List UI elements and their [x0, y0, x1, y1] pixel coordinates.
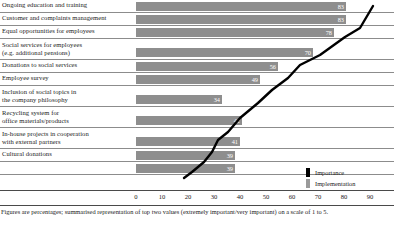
chart-row: Donations to social services 56	[0, 61, 394, 72]
chart-footnote: Figures are percentages; summarised repr…	[1, 207, 393, 216]
chart-legend: Importance Implementation	[306, 167, 392, 189]
row-separator	[0, 148, 394, 149]
legend-label-implementation: Implementation	[315, 179, 355, 188]
chart-row: Employee survey 49	[0, 74, 394, 85]
x-tick-50: 50	[256, 193, 276, 200]
bar-value-label: 39	[195, 151, 233, 160]
row-separator	[0, 85, 394, 86]
bar-value-label: 41	[200, 137, 238, 146]
chart-row: In-house projects in cooperation with ex…	[0, 130, 394, 148]
chart-container: Ongoing education and training 83 Custom…	[0, 0, 394, 225]
legend-item-importance: Importance	[306, 167, 392, 178]
x-tick-10: 10	[152, 193, 172, 200]
row-separator	[0, 72, 394, 73]
bar-value-label: 39	[195, 164, 233, 173]
row-label: Cultural donations	[2, 150, 134, 158]
bar-value-label: 83	[306, 15, 344, 24]
chart-row: Cultural donations 39	[0, 150, 394, 161]
row-separator	[0, 127, 394, 128]
bar-value-label: 34	[182, 95, 220, 104]
row-separator	[0, 59, 394, 60]
row-label: Social services for employees (e.g. addi…	[2, 41, 134, 57]
legend-swatch-implementation	[306, 179, 310, 188]
legend-swatch-importance	[306, 168, 310, 177]
x-axis-line	[0, 190, 394, 191]
chart-row: Inclusion of social topics in the compan…	[0, 88, 394, 106]
x-tick-30: 30	[204, 193, 224, 200]
row-separator	[0, 12, 394, 13]
row-label: Recycling system for office materials/pr…	[2, 109, 134, 125]
legend-item-implementation: Implementation	[306, 178, 392, 189]
row-separator	[0, 161, 394, 162]
x-tick-40: 40	[230, 193, 250, 200]
plot-area: Ongoing education and training 83 Custom…	[0, 0, 394, 190]
chart-row: Recycling system for office materials/pr…	[0, 109, 394, 127]
row-label: Customer and complaints management	[2, 14, 134, 22]
bar-value-label: 49	[220, 75, 258, 84]
chart-row: Customer and complaints management 83	[0, 14, 394, 25]
bar-value-label: 83	[306, 2, 344, 11]
row-separator	[0, 38, 394, 39]
x-axis-baseline	[0, 205, 394, 206]
row-label: Donations to social services	[2, 61, 134, 69]
x-tick-60: 60	[282, 193, 302, 200]
row-label: Ongoing education and training	[2, 1, 134, 9]
row-label: Equal opportunities for employees	[2, 27, 134, 35]
bar-value-label: 42	[202, 116, 240, 125]
chart-row: Ongoing education and training 83	[0, 1, 394, 12]
bar-value-label: 56	[238, 62, 276, 71]
row-label: In-house projects in cooperation with ex…	[2, 130, 134, 146]
legend-label-importance: Importance	[315, 168, 344, 177]
bar-value-label: 78	[294, 28, 332, 37]
x-tick-70: 70	[308, 193, 328, 200]
bar-value-label: 70	[273, 48, 311, 57]
chart-row: Equal opportunities for employees 78	[0, 27, 394, 38]
row-label: Employee survey	[2, 74, 134, 82]
x-tick-90: 90	[360, 193, 380, 200]
x-tick-20: 20	[178, 193, 198, 200]
row-separator	[0, 106, 394, 107]
row-label: Inclusion of social topics in the compan…	[2, 88, 134, 104]
row-separator	[0, 25, 394, 26]
x-tick-80: 80	[334, 193, 354, 200]
x-tick-0: 0	[126, 193, 146, 200]
chart-row: Social services for employees (e.g. addi…	[0, 41, 394, 59]
